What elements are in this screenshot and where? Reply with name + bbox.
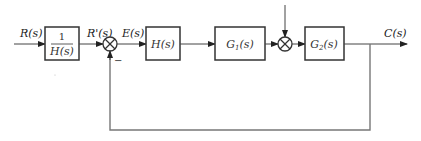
prefilter-numerator: 1 xyxy=(59,31,65,42)
summing-junction-2 xyxy=(278,37,292,51)
scan-artifact xyxy=(54,74,55,75)
block-diagram: R(s) 1 H(s) R'(s) − E(s) H(s) G1(s) xyxy=(0,0,421,141)
error-signal-label: E(s) xyxy=(121,27,144,40)
h-block-label: H(s) xyxy=(150,38,175,51)
feedback-sign: − xyxy=(114,55,122,66)
g1-block: G1(s) xyxy=(215,27,265,60)
input-label: R(s) xyxy=(19,27,43,40)
h-block: H(s) xyxy=(146,27,180,60)
g2-block: G2(s) xyxy=(305,27,344,60)
g2-block-label: G2(s) xyxy=(310,38,338,52)
summing-junction-1 xyxy=(103,37,117,51)
output-label: C(s) xyxy=(384,27,407,40)
g1-block-label: G1(s) xyxy=(226,38,254,52)
prefilter-block: 1 H(s) xyxy=(45,27,79,60)
prefilter-denominator: H(s) xyxy=(49,45,74,58)
